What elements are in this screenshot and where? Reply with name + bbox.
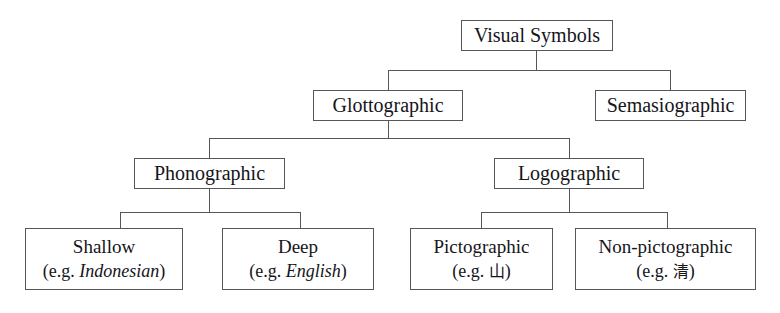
example-suffix: ) (689, 261, 695, 281)
node-label: Glottographic (332, 94, 443, 118)
connector-phonographic-bar (120, 212, 300, 213)
node-label: Phonographic (154, 162, 265, 186)
example-suffix: ) (341, 261, 347, 281)
connector-logographic-to-pictographic (481, 212, 482, 228)
connector-glottographic-stem (388, 121, 389, 138)
node-example: (e.g. Indonesian) (43, 261, 165, 282)
node-glottographic: Glottographic (313, 90, 463, 121)
connector-logographic-stem (569, 189, 570, 212)
connector-phonographic-to-deep (300, 212, 301, 228)
connector-phonographic-stem (209, 189, 210, 212)
node-example: (e.g. 山) (452, 261, 510, 282)
connector-glottographic-to-logographic (569, 138, 570, 158)
taxonomy-diagram: Visual Symbols Glottographic Semasiograp… (0, 0, 780, 313)
example-prefix: (e.g. (249, 261, 285, 281)
example-suffix: ) (505, 261, 511, 281)
node-label: Deep (278, 236, 318, 258)
example-prefix: (e.g. (43, 261, 79, 281)
node-label: Pictographic (433, 236, 529, 258)
node-phonographic: Phonographic (134, 158, 285, 189)
example-value: English (286, 261, 341, 281)
node-label: Logographic (518, 162, 620, 186)
node-semasiographic: Semasiographic (595, 90, 746, 121)
node-example: (e.g. 清) (636, 261, 694, 282)
example-value: 清 (673, 262, 689, 281)
node-example: (e.g. English) (249, 261, 347, 282)
node-label: Visual Symbols (474, 24, 600, 48)
connector-glottographic-to-phonographic (209, 138, 210, 158)
node-label: Shallow (73, 236, 135, 258)
node-visual-symbols: Visual Symbols (461, 20, 613, 51)
connector-root-stem (536, 51, 537, 70)
example-value: 山 (489, 262, 505, 281)
connector-glottographic-bar (209, 138, 570, 139)
example-prefix: (e.g. (636, 261, 672, 281)
connector-root-to-glottographic (388, 70, 389, 90)
node-label: Non-pictographic (598, 236, 732, 258)
node-logographic: Logographic (494, 158, 644, 189)
node-deep: Deep (e.g. English) (222, 228, 374, 290)
connector-root-to-semasiographic (670, 70, 671, 90)
example-suffix: ) (159, 261, 165, 281)
connector-phonographic-to-shallow (120, 212, 121, 228)
connector-root-bar (388, 70, 671, 71)
example-value: Indonesian (79, 261, 159, 281)
node-label: Semasiographic (607, 94, 735, 118)
node-pictographic: Pictographic (e.g. 山) (410, 228, 553, 290)
node-non-pictographic: Non-pictographic (e.g. 清) (575, 228, 756, 290)
connector-logographic-bar (481, 212, 667, 213)
example-prefix: (e.g. (452, 261, 488, 281)
connector-logographic-to-non-pictographic (667, 212, 668, 228)
node-shallow: Shallow (e.g. Indonesian) (25, 228, 183, 290)
